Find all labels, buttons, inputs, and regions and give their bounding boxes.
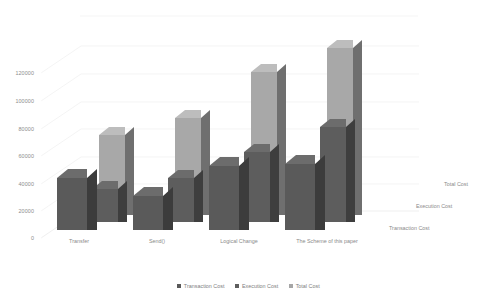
legend-item-execution-cost[interactable]: Execution Cost bbox=[235, 283, 278, 289]
bar-side-face bbox=[346, 119, 355, 222]
legend-swatch-icon bbox=[289, 284, 293, 288]
z-tick-transaction-cost: Transaction Cost bbox=[389, 225, 430, 231]
x-tick-scheme: The Scheme of this paper bbox=[283, 238, 371, 244]
y-tick-120000: 120000 bbox=[0, 70, 34, 76]
legend-label: Total Cost bbox=[296, 283, 320, 289]
bar-front-face bbox=[285, 164, 315, 230]
legend-label: Transaction Cost bbox=[184, 283, 225, 289]
bar-front-face bbox=[57, 178, 87, 230]
y-tick-80000: 80000 bbox=[0, 126, 34, 132]
x-tick-transfer: Transfer bbox=[56, 238, 102, 244]
x-tick-send: Send() bbox=[134, 238, 180, 244]
z-tick-execution-cost: Execution Cost bbox=[416, 203, 452, 209]
bar-send-transaction-cost bbox=[133, 196, 163, 230]
bar-logical-change-transaction-cost bbox=[209, 166, 239, 230]
z-tick-total-cost: Total Cost bbox=[444, 181, 468, 187]
chart-3d-column: 120000 100000 80000 60000 40000 20000 0 bbox=[0, 0, 497, 295]
legend-swatch-icon bbox=[177, 284, 181, 288]
legend-item-transaction-cost[interactable]: Transaction Cost bbox=[177, 283, 224, 289]
bar-side-face bbox=[270, 144, 279, 222]
bar-transfer-transaction-cost bbox=[57, 178, 87, 230]
legend-label: Execution Cost bbox=[242, 283, 278, 289]
legend-item-total-cost[interactable]: Total Cost bbox=[289, 283, 319, 289]
x-tick-logical-change: Logical Change bbox=[206, 238, 272, 244]
y-tick-60000: 60000 bbox=[0, 153, 34, 159]
chart-grid bbox=[0, 0, 497, 295]
y-tick-40000: 40000 bbox=[0, 181, 34, 187]
bar-side-face bbox=[194, 170, 203, 222]
chart-legend: Transaction Cost Execution Cost Total Co… bbox=[0, 283, 497, 289]
bar-side-face bbox=[315, 155, 325, 230]
y-tick-100000: 100000 bbox=[0, 98, 34, 104]
bar-front-face bbox=[133, 196, 163, 230]
y-tick-0: 0 bbox=[0, 235, 34, 241]
bar-scheme-transaction-cost bbox=[285, 164, 315, 230]
bar-front-face bbox=[209, 166, 239, 230]
y-tick-20000: 20000 bbox=[0, 208, 34, 214]
bar-side-face bbox=[87, 169, 97, 230]
bar-side-face bbox=[239, 157, 249, 230]
plot-area: 120000 100000 80000 60000 40000 20000 0 bbox=[0, 0, 497, 295]
legend-swatch-icon bbox=[235, 284, 239, 288]
